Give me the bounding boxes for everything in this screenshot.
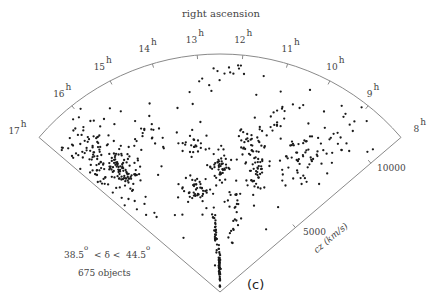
degree-symbol: o: [84, 244, 88, 252]
decl-symbol: δ: [104, 250, 109, 260]
ra-tick-label: 10h: [326, 58, 344, 72]
declination-annotation: 38.5o < δ < 44.5o: [64, 248, 150, 260]
chart-title: right ascension: [182, 8, 260, 19]
ra-tick-label: 13h: [186, 31, 204, 45]
radial-tick-5000: 5000: [303, 227, 326, 237]
decl-high: 44.5: [126, 250, 146, 260]
wedge-plot: [0, 0, 438, 307]
panel-label: (c): [247, 277, 264, 292]
ra-tick-label: 8h: [414, 120, 427, 134]
ra-tick-label: 16h: [53, 85, 71, 99]
ra-tick-label: 14h: [138, 40, 156, 54]
radial-tick-10000: 10000: [377, 163, 406, 173]
ra-tick-label: 15h: [94, 58, 112, 72]
decl-low: 38.5: [64, 250, 84, 260]
degree-symbol: o: [146, 244, 150, 252]
ra-tick-label: 9h: [367, 85, 380, 99]
ra-tick-label: 12h: [234, 31, 252, 45]
ra-tick-label: 11h: [282, 40, 300, 54]
ra-tick-label: 17h: [8, 122, 26, 136]
object-count: 675 objects: [78, 268, 131, 278]
